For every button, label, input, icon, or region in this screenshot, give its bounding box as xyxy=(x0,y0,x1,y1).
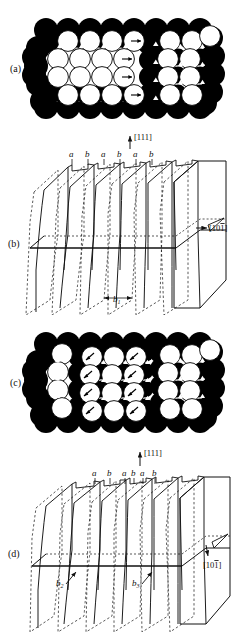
burgers-b2-subscript: 2 xyxy=(61,583,64,589)
burgers-b3-arrow xyxy=(142,572,152,584)
plane-label-a2-b: a xyxy=(101,149,106,159)
direction-101-label-b: [101] xyxy=(209,223,228,233)
burgers-b1-label: b1 xyxy=(113,294,121,305)
direction-101-arrow-d xyxy=(206,534,228,556)
panel-d: (d) [111] a b a b a b xyxy=(0,444,243,632)
plane-label-a3-d: a xyxy=(140,468,145,478)
right-block-face-b xyxy=(174,161,226,308)
plane-label-a1-b: a xyxy=(69,149,74,159)
sphere-model-c xyxy=(0,322,243,444)
panel-c-drawing xyxy=(0,322,243,444)
svg-text:[101]: [101] xyxy=(203,560,222,570)
dir-101-post-d: ] xyxy=(219,560,222,570)
dir-101-post-b: ] xyxy=(225,223,228,233)
burgers-b3-subscript: 3 xyxy=(136,583,140,589)
plane-label-a2-d: a xyxy=(122,468,127,478)
panel-b: (b) [111] a b a b a xyxy=(0,130,243,315)
plane-label-b3-b: b xyxy=(149,149,154,159)
svg-text:b1: b1 xyxy=(113,294,121,305)
burgers-b2-label: b2 xyxy=(56,578,64,589)
dir-101-pre-b: [10 xyxy=(209,223,220,233)
plane-schematic-d: [111] a b a b a b xyxy=(0,444,243,632)
plane-label-row-b: a b a b a b xyxy=(69,149,154,159)
sphere-model-a xyxy=(0,8,243,130)
light-atom-layer xyxy=(48,26,221,106)
direction-111-label-d: [111] xyxy=(144,448,162,458)
svg-text:b3: b3 xyxy=(132,578,140,589)
panel-d-drawing: [111] a b a b a b xyxy=(0,444,243,632)
burgers-b3-label: b3 xyxy=(132,578,140,589)
panel-a-drawing xyxy=(0,8,243,130)
solid-plane-group-d xyxy=(38,477,206,628)
svg-text:[101]: [101] xyxy=(209,223,228,233)
slip-plane-line-b xyxy=(30,219,226,248)
plane-label-b1-b: b xyxy=(85,149,90,159)
plane-label-b2-d: b xyxy=(131,468,136,478)
panel-c: (c) xyxy=(0,322,243,444)
burgers-b1-subscript: 1 xyxy=(118,299,121,305)
plane-label-b1-d: b xyxy=(107,468,112,478)
direction-101-label-d: [101] xyxy=(203,560,222,570)
plane-label-a1-d: a xyxy=(92,468,97,478)
solid-plane-group-b xyxy=(36,161,200,312)
svg-text:b2: b2 xyxy=(56,578,64,589)
dir-101-pre-d: [10 xyxy=(203,560,214,570)
burgers-b2-arrow xyxy=(66,572,76,584)
plane-label-a3-b: a xyxy=(133,149,138,159)
plane-schematic-b: [111] a b a b a b xyxy=(0,130,243,315)
plane-label-row-d: a b a b a b xyxy=(92,468,157,478)
panel-b-drawing: [111] a b a b a b xyxy=(0,130,243,315)
figure-root: (a) xyxy=(0,0,243,632)
dashed-plane-group-d xyxy=(30,478,194,632)
direction-111-label-b: [111] xyxy=(134,132,152,142)
plane-label-b2-b: b xyxy=(117,149,122,159)
panel-a: (a) xyxy=(0,8,243,130)
